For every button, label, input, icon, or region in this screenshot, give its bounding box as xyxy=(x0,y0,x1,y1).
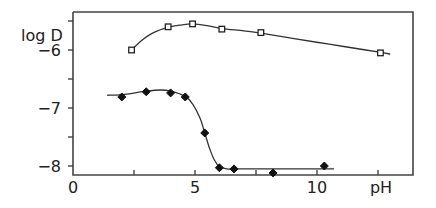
chart: 0510pH −6−7−8 log D xyxy=(0,0,436,208)
series-1 xyxy=(129,21,390,56)
series-2 xyxy=(107,88,334,177)
diamond-marker xyxy=(201,129,209,137)
diamond-marker xyxy=(230,165,238,173)
square-marker xyxy=(378,50,384,56)
square-marker xyxy=(165,24,171,30)
square-marker xyxy=(190,21,196,27)
y-axis-tick-labels: −6−7−8 xyxy=(37,41,61,176)
square-marker xyxy=(219,26,225,32)
x-axis-tick-labels: 0510pH xyxy=(68,178,392,197)
plot-frame xyxy=(73,12,413,175)
diamond-marker xyxy=(215,164,223,172)
axes-frame xyxy=(73,12,413,175)
square-marker xyxy=(258,30,264,36)
x-axis-label: pH xyxy=(370,178,392,197)
diamond-marker xyxy=(181,93,189,101)
y-tick-label: −7 xyxy=(37,99,61,118)
x-tick-label: 5 xyxy=(190,178,200,197)
x-tick-label: 10 xyxy=(307,178,327,197)
fit-curve xyxy=(107,90,334,169)
diamond-marker xyxy=(142,88,150,96)
y-tick-label: −8 xyxy=(37,157,61,176)
x-tick-label: 0 xyxy=(68,178,78,197)
y-axis-label: log D xyxy=(21,26,63,45)
data-series xyxy=(107,21,390,177)
square-marker xyxy=(129,47,135,53)
